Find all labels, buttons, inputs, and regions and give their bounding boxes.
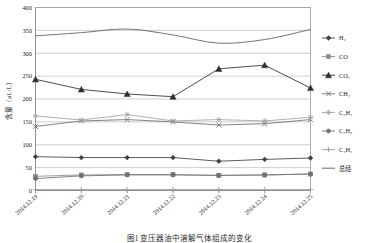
figure-caption-clip: 图1 变压器油中溶解气体组成的变化 — [0, 234, 379, 243]
y-tick-label: 250 — [22, 72, 32, 79]
legend-label: H₂ — [339, 34, 346, 41]
marker-star — [170, 118, 175, 123]
legend-item-H2[interactable]: H₂ — [322, 34, 346, 41]
x-tick-label: 2014.12.19 — [14, 193, 38, 216]
legend-item-C2H2[interactable]: C₂H₂ — [322, 146, 352, 153]
marker-star — [326, 110, 331, 115]
marker-circle — [326, 129, 330, 133]
y-tick-label: 50 — [26, 164, 32, 171]
legend-label: CO₂ — [339, 72, 350, 79]
marker-square — [326, 55, 330, 59]
legend-item-CH4[interactable]: CH₄ — [322, 90, 350, 97]
x-axis-tick-labels: 2014.12.192014.12.202014.12.212014.12.22… — [14, 191, 313, 217]
legend-label: C₂H₂ — [339, 146, 352, 153]
legend: H₂COCO₂CH₄C₂H₄C₂H₆C₂H₂总烃 — [322, 34, 352, 172]
marker-circle — [217, 173, 221, 177]
marker-star — [125, 112, 130, 117]
marker-diamond — [326, 36, 331, 41]
marker-circle — [33, 177, 37, 181]
y-tick-label: 100 — [22, 141, 32, 148]
figure-caption: 图1 变压器油中溶解气体组成的变化 — [0, 234, 379, 243]
x-tick-label: 2014.12.24 — [243, 193, 267, 216]
x-tick-label: 2014.12.25 — [289, 193, 313, 216]
marker-circle — [79, 174, 83, 178]
marker-circle — [263, 173, 267, 177]
legend-item-C2H6[interactable]: C₂H₆ — [322, 127, 352, 134]
y-tick-label: 350 — [22, 27, 32, 34]
legend-item-CO[interactable]: CO — [322, 53, 348, 60]
x-tick-label: 2014.12.22 — [152, 193, 176, 216]
legend-item-总烃[interactable]: 总烃 — [322, 164, 352, 173]
marker-plus — [326, 147, 331, 152]
y-tick-label: 150 — [22, 118, 32, 125]
y-axis-title: 含量（μL/L） — [4, 78, 13, 119]
gas-content-line-chart: 0501001502002503003504002014.12.192014.1… — [0, 0, 379, 243]
marker-star — [216, 117, 221, 122]
marker-star — [262, 118, 267, 123]
x-tick-label: 2014.12.23 — [198, 193, 222, 216]
y-tick-label: 0 — [29, 187, 32, 194]
legend-item-CO2[interactable]: CO₂ — [322, 72, 350, 79]
marker-circle — [171, 173, 175, 177]
chart-figure: 0501001502002503003504002014.12.192014.1… — [0, 0, 379, 243]
legend-label: C₂H₆ — [339, 127, 352, 134]
legend-item-C2H4[interactable]: C₂H₄ — [322, 109, 352, 116]
x-tick-label: 2014.12.21 — [106, 193, 130, 216]
legend-label: C₂H₄ — [339, 109, 352, 116]
legend-label: CH₄ — [339, 90, 350, 97]
y-axis-tick-labels: 050100150200250300350400 — [22, 4, 32, 194]
marker-circle — [308, 172, 312, 176]
y-tick-label: 200 — [22, 95, 32, 102]
marker-circle — [125, 173, 129, 177]
y-tick-label: 400 — [22, 4, 32, 11]
y-tick-label: 300 — [22, 50, 32, 57]
legend-label: 总烃 — [339, 164, 352, 173]
marker-star — [79, 117, 84, 122]
marker-star — [308, 115, 313, 120]
legend-label: CO — [339, 53, 348, 60]
x-tick-label: 2014.12.20 — [60, 193, 84, 216]
marker-star — [33, 113, 38, 118]
